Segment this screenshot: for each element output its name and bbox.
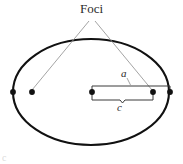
- point-left-focus: [29, 89, 35, 95]
- leader-line-right-focus: [95, 21, 152, 90]
- caption-fragment: c: [2, 153, 7, 163]
- point-right-focus: [150, 89, 156, 95]
- leader-line-a-label: [127, 78, 131, 86]
- focal-distance-brace: [92, 94, 153, 103]
- leader-line-left-focus: [32, 21, 89, 90]
- point-left-vertex: [10, 89, 16, 95]
- semi-major-axis-label: a: [121, 68, 127, 79]
- focal-distance-label: c: [117, 102, 122, 113]
- foci-label: Foci: [0, 2, 183, 15]
- figure-canvas: [0, 0, 183, 164]
- ellipse-foci-figure: Foci a c c: [0, 0, 183, 164]
- point-center: [89, 89, 95, 95]
- point-right-vertex: [167, 89, 173, 95]
- semi-major-axis-bracket: [92, 86, 170, 90]
